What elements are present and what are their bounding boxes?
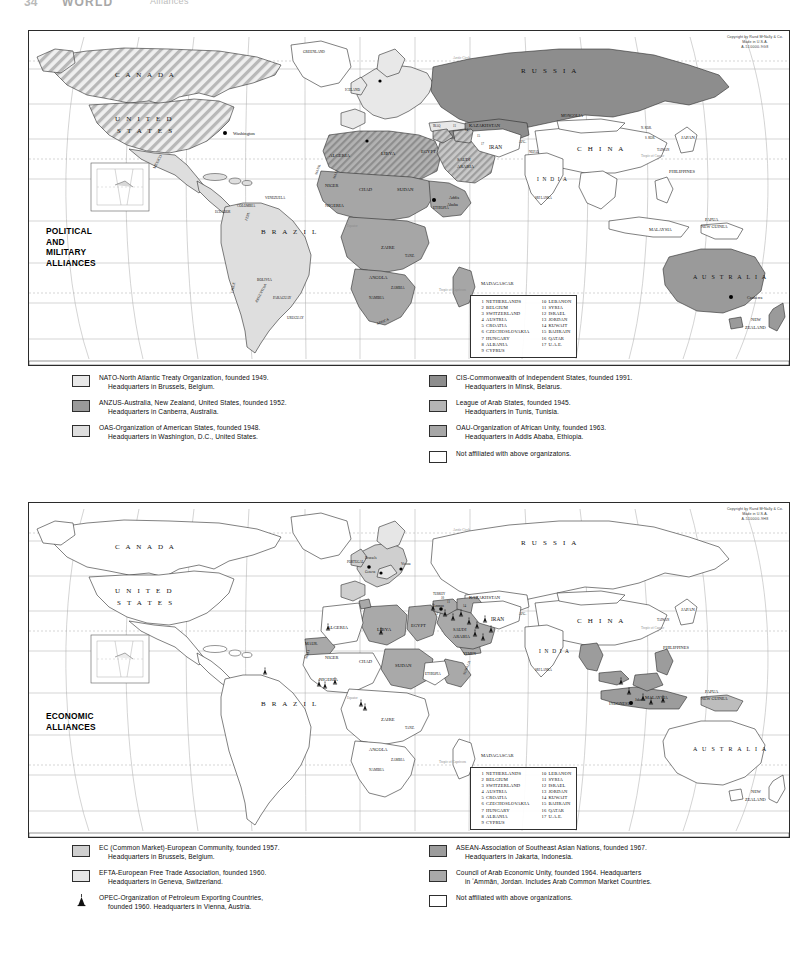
map-canvas-political: C A N A D A U N I T E D S T A T E S Wash… (29, 31, 789, 365)
legend-swatch-asean (429, 845, 447, 857)
region-southeast-asia (579, 171, 617, 209)
svg-text:EGYPT: EGYPT (421, 149, 436, 154)
legend-swatch-unaffiliated (429, 451, 447, 463)
svg-text:NEW: NEW (751, 789, 762, 794)
region-iberia-ec (341, 581, 365, 601)
svg-text:NEPAL: NEPAL (529, 150, 539, 154)
region-tasmania-anzus (729, 317, 743, 329)
svg-text:ZAIRE: ZAIRE (381, 245, 395, 250)
region-south-america-econ (221, 675, 311, 825)
svg-text:INDONESIA: INDONESIA (609, 701, 632, 706)
svg-text:MADAGASCAR: MADAGASCAR (481, 281, 515, 286)
legend-economic-right-column: ASEAN-Association of Southeast Asian Nat… (409, 844, 790, 954)
svg-text:IRAN: IRAN (491, 616, 504, 622)
legend-item-asean[interactable]: ASEAN-Association of Southeast Asian Nat… (429, 844, 790, 861)
region-new-zealand-anzus (769, 303, 785, 331)
region-new-zealand-econ (769, 775, 785, 803)
legend-item-nato[interactable]: NATO-North Atlantic Treaty Organization,… (72, 374, 409, 391)
legend-swatch-oas (72, 425, 90, 437)
region-united-states (89, 99, 234, 153)
svg-text:ANGOLA: ANGOLA (369, 747, 388, 752)
copyright-code: A-510000-9G8 (727, 45, 783, 50)
svg-text:12: 12 (435, 612, 439, 616)
legend-item-arab-league[interactable]: League of Arab States, founded 1945. Hea… (429, 399, 790, 416)
svg-text:Tropic of Capricorn: Tropic of Capricorn (439, 760, 466, 764)
svg-text:SRI LANKA: SRI LANKA (535, 196, 553, 200)
svg-text:PAPUA: PAPUA (705, 217, 718, 222)
svg-text:C H I N A: C H I N A (577, 145, 626, 153)
legend-label-unaffiliated-political: Not affiliated with above organizatons. (456, 450, 571, 459)
page-title: WORLD (62, 0, 113, 9)
svg-text:KAZAKHSTAN: KAZAKHSTAN (469, 123, 501, 128)
legend-label-caeu: Council of Arab Economic Unity, founded … (456, 869, 652, 886)
atlas-page: 34 WORLD Alliances (0, 0, 809, 969)
svg-text:C A N A D A: C A N A D A (115, 71, 176, 79)
legend-label-cis: CIS-Commonwealth of Independent States, … (456, 374, 632, 391)
region-antarctica-edge (29, 361, 789, 365)
svg-text:R U S S I A: R U S S I A (521, 539, 578, 547)
svg-text:AFG.: AFG. (519, 612, 526, 616)
svg-text:ETHIOPIA: ETHIOPIA (425, 672, 441, 676)
svg-text:I N D I A: I N D I A (539, 648, 570, 654)
inset-locator-political (91, 163, 149, 211)
legend-item-efta[interactable]: EFTA-European Free Trade Association, fo… (72, 869, 409, 886)
region-philippines (655, 177, 673, 203)
svg-text:Geneva: Geneva (365, 570, 376, 574)
map-caption-political: POLITICAL AND MILITARY ALLIANCES (46, 226, 96, 268)
svg-text:Ammān: Ammān (433, 604, 444, 608)
svg-text:MONGOLIA: MONGOLIA (561, 113, 583, 118)
svg-text:11: 11 (453, 124, 456, 128)
svg-text:NEW GUINEA: NEW GUINEA (701, 696, 728, 701)
svg-text:NAMIBIA: NAMIBIA (369, 768, 384, 772)
legend-item-caeu[interactable]: Council of Arab Economic Unity, founded … (429, 869, 790, 886)
svg-text:ETHIOPIA: ETHIOPIA (433, 206, 449, 210)
svg-text:ARABIA: ARABIA (457, 164, 475, 169)
svg-text:C A N A D A: C A N A D A (115, 543, 176, 551)
caption-line-2: AND (46, 237, 96, 248)
svg-text:NEW: NEW (751, 317, 762, 322)
index-entry: 17U.A.E. (539, 814, 571, 820)
legend-label-arab-league: League of Arab States, founded 1945. Hea… (456, 399, 571, 416)
svg-text:N. KOR.: N. KOR. (641, 126, 652, 130)
svg-text:Arctic Circle: Arctic Circle (453, 528, 471, 532)
page-header: 34 WORLD Alliances (0, 0, 809, 13)
region-russia-econ (431, 521, 729, 603)
legend-item-ec[interactable]: EC (Common Market)-European Community, f… (72, 844, 409, 861)
svg-text:IRAN: IRAN (489, 144, 502, 150)
svg-text:COLOMBIA: COLOMBIA (237, 204, 256, 208)
legend-item-opec[interactable]: OPEC-Organization of Petroleum Exporting… (72, 894, 409, 911)
region-tunisia-caeu (359, 599, 371, 609)
region-iberia (341, 109, 365, 129)
legend-label-oau: OAU-Organization of African Unity, found… (456, 424, 606, 441)
svg-text:NIGERIA: NIGERIA (325, 203, 345, 208)
svg-text:S T A T E S: S T A T E S (117, 127, 174, 135)
svg-text:YEMEN: YEMEN (463, 652, 476, 656)
svg-text:ANGOLA: ANGOLA (369, 275, 388, 280)
map-economic[interactable]: C A N A D A U N I T E D S T A T E S B R … (28, 502, 790, 838)
legend-item-unaffiliated-political[interactable]: Not affiliated with above organizatons. (429, 450, 790, 463)
svg-text:ZAMBIA: ZAMBIA (391, 286, 405, 290)
map-political-military[interactable]: C A N A D A U N I T E D S T A T E S Wash… (28, 30, 790, 366)
region-malaysia-asean (599, 671, 629, 685)
svg-text:Addis: Addis (449, 195, 459, 200)
region-thailand-asean (579, 643, 603, 671)
legend-swatch-arab-league (429, 400, 447, 412)
legend-item-oas[interactable]: OAS-Organization of American States, fou… (72, 424, 409, 441)
region-caribbean (203, 174, 252, 186)
svg-text:NIGER: NIGER (325, 183, 338, 188)
page-number: 34 (24, 0, 37, 9)
region-greenland (291, 41, 351, 87)
svg-text:U N I T E D: U N I T E D (115, 587, 174, 595)
svg-text:S T A T E S: S T A T E S (117, 599, 174, 607)
legend-item-oau[interactable]: OAU-Organization of African Unity, found… (429, 424, 790, 441)
svg-text:ZAMBIA: ZAMBIA (391, 758, 405, 762)
svg-text:PHILIPPINES: PHILIPPINES (669, 169, 695, 174)
caption-line-3: MILITARY (46, 247, 96, 258)
legend-item-anzus[interactable]: ANZUS-Australia, New Zealand, United Sta… (72, 399, 409, 416)
legend-label-unaffiliated-economic: Not affiliated with above organizations. (456, 894, 573, 903)
legend-item-unaffiliated-economic[interactable]: Not affiliated with above organizations. (429, 894, 790, 907)
legend-item-cis[interactable]: CIS-Commonwealth of Independent States, … (429, 374, 790, 391)
svg-text:TURKEY: TURKEY (433, 592, 446, 596)
svg-text:EGYPT: EGYPT (411, 623, 426, 628)
svg-text:Tropic of Cancer: Tropic of Cancer (641, 626, 665, 630)
